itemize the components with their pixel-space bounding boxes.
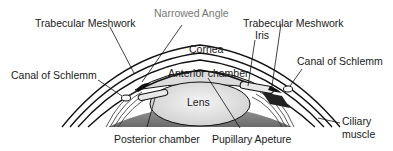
label-posterior-chamber: Posterior chamber [114, 134, 200, 146]
label-cornea: Cornea [189, 44, 223, 56]
label-canal-of-schlemm-right: Canal of Schlemm [297, 56, 383, 68]
eye-diagram: Trabecular Meshwork Narrowed Angle Trabe… [0, 0, 393, 151]
label-narrowed-angle: Narrowed Angle [154, 8, 229, 20]
label-canal-of-schlemm-left: Canal of Schlemm [11, 70, 97, 82]
label-trabecular-meshwork-left: Trabecular Meshwork [35, 18, 136, 30]
canal-schlemm-left-shape [122, 95, 131, 101]
ciliary-dark-right [262, 92, 290, 108]
label-lens: Lens [187, 97, 210, 109]
label-iris: Iris [255, 30, 269, 42]
label-muscle: muscle [342, 129, 375, 141]
label-pupillary-aperture: Pupillary Apeture [212, 134, 291, 146]
label-trabecular-meshwork-right: Trabecular Meshwork [243, 18, 344, 30]
canal-schlemm-right-shape [284, 86, 293, 92]
label-anterior-chamber: Anterior chamber [168, 68, 249, 80]
label-ciliary: Ciliary [342, 116, 371, 128]
